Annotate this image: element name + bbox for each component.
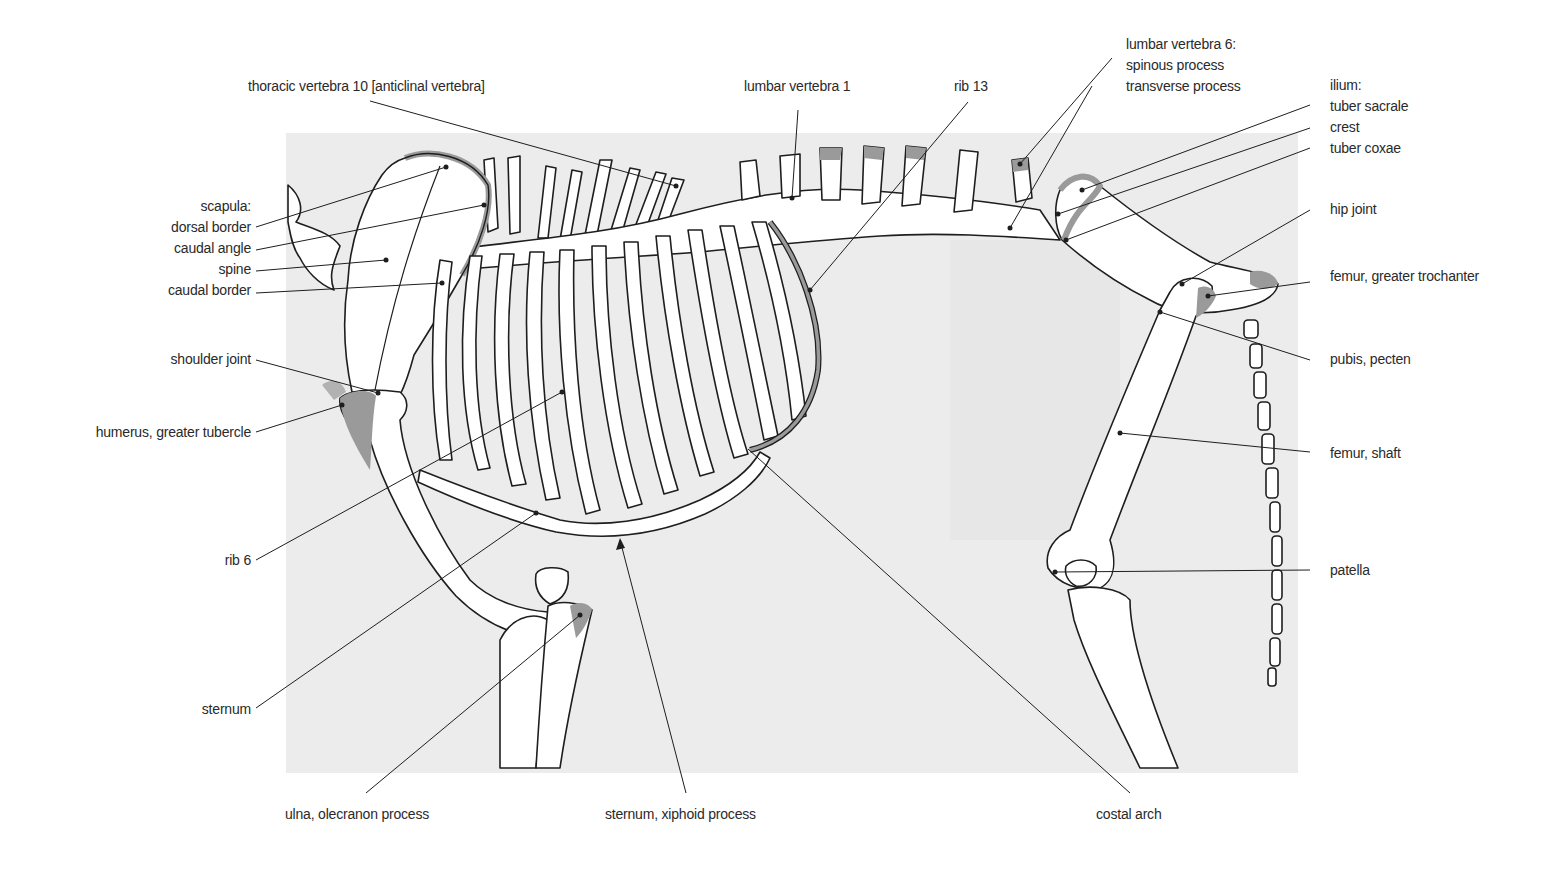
label-sternum-xiphoid: sternum, xiphoid process — [605, 804, 756, 825]
label-caudal-border: caudal border — [168, 280, 251, 301]
label-lumbar-vertebra-1: lumbar vertebra 1 — [744, 76, 850, 97]
label-sternum: sternum — [202, 699, 251, 720]
anatomy-figure: thoracic vertebra 10 [anticlinal vertebr… — [0, 0, 1564, 883]
label-dorsal-border: dorsal border — [168, 217, 251, 238]
label-tuber-sacrale: tuber sacrale — [1330, 96, 1408, 117]
label-hip-joint: hip joint — [1330, 199, 1376, 220]
label-pubis-pecten: pubis, pecten — [1330, 349, 1411, 370]
label-tuber-coxae: tuber coxae — [1330, 138, 1408, 159]
label-transverse-process: transverse process — [1126, 76, 1241, 97]
label-patella: patella — [1330, 560, 1370, 581]
label-femur-shaft: femur, shaft — [1330, 443, 1401, 464]
label-shoulder-joint: shoulder joint — [171, 349, 251, 370]
label-femur-greater-trochanter: femur, greater trochanter — [1330, 266, 1479, 287]
label-ilium-crest: crest — [1330, 117, 1408, 138]
label-lumbar-vertebra-6-heading: lumbar vertebra 6: — [1126, 34, 1241, 55]
label-costal-arch: costal arch — [1096, 804, 1162, 825]
label-scapula-spine: spine — [168, 259, 251, 280]
label-scapula-heading: scapula: — [168, 196, 251, 217]
label-ilium-heading: ilium: — [1330, 75, 1408, 96]
label-rib-13: rib 13 — [954, 76, 988, 97]
label-ilium: ilium: tuber sacrale crest tuber coxae — [1330, 75, 1408, 159]
label-rib-6: rib 6 — [225, 550, 251, 571]
label-spinous-process: spinous process — [1126, 55, 1241, 76]
label-caudal-angle: caudal angle — [168, 238, 251, 259]
label-scapula: scapula: dorsal border caudal angle spin… — [168, 196, 251, 301]
label-thoracic-vertebra-10: thoracic vertebra 10 [anticlinal vertebr… — [248, 76, 485, 97]
label-ulna-olecranon: ulna, olecranon process — [285, 804, 429, 825]
label-lumbar-vertebra-6: lumbar vertebra 6: spinous process trans… — [1126, 34, 1241, 97]
label-humerus-greater-tubercle: humerus, greater tubercle — [96, 422, 251, 443]
